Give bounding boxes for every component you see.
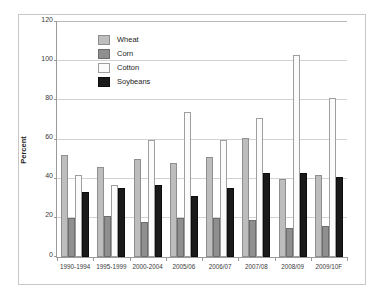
- bar-wheat: [315, 175, 322, 257]
- x-tick-label: 2005/06: [172, 263, 195, 270]
- bar-cotton: [148, 140, 155, 258]
- bar-group: 1990-1994: [57, 22, 93, 257]
- bar-cotton: [111, 185, 118, 257]
- bar-wheat: [97, 167, 104, 257]
- x-tick-label: 2009/10F: [316, 263, 343, 270]
- bar-corn: [249, 220, 256, 257]
- chart-figure: Percent 020406080100120 1990-19941995-19…: [18, 14, 366, 285]
- bar-group: 2007/08: [238, 22, 274, 257]
- bar-soybeans: [263, 173, 270, 257]
- y-tick-label: 80: [45, 93, 53, 100]
- bar-corn: [286, 228, 293, 257]
- x-tick-label: 1995-1999: [96, 263, 126, 270]
- bar-cotton: [329, 98, 336, 257]
- x-tick-mark: [93, 257, 94, 261]
- bar-cotton: [75, 175, 82, 257]
- x-tick-mark: [202, 257, 203, 261]
- bar-corn: [104, 216, 111, 257]
- legend-item-corn: Corn: [98, 48, 150, 59]
- bar-soybeans: [300, 173, 307, 257]
- y-tick-label: 40: [45, 172, 53, 179]
- bar-corn: [213, 218, 220, 257]
- bar-wheat: [279, 179, 286, 257]
- bar-soybeans: [82, 192, 89, 257]
- bar-group: 2005/06: [166, 22, 202, 257]
- legend-label: Corn: [117, 49, 133, 58]
- y-tick-label: 0: [49, 250, 53, 257]
- bar-wheat: [134, 159, 141, 257]
- bar-cotton: [220, 140, 227, 258]
- bar-group: 2009/10F: [311, 22, 347, 257]
- legend-label: Cotton: [117, 63, 139, 72]
- y-tick-label: 100: [41, 54, 53, 61]
- x-tick-mark: [275, 257, 276, 261]
- legend-swatch-icon: [98, 49, 110, 59]
- bar-soybeans: [336, 177, 343, 257]
- legend-label: Wheat: [117, 35, 139, 44]
- bar-group: 2008/09: [275, 22, 311, 257]
- x-tick-mark: [311, 257, 312, 261]
- legend-swatch-icon: [98, 63, 110, 73]
- x-tick-label: 2007/08: [245, 263, 268, 270]
- bar-corn: [68, 218, 75, 257]
- y-tick-label: 120: [41, 15, 53, 22]
- y-tick-label: 20: [45, 211, 53, 218]
- bar-corn: [141, 222, 148, 257]
- bar-soybeans: [227, 188, 234, 257]
- legend-item-cotton: Cotton: [98, 62, 150, 73]
- bar-wheat: [170, 163, 177, 257]
- x-tick-mark: [238, 257, 239, 261]
- bar-cotton: [256, 118, 263, 257]
- bar-wheat: [206, 157, 213, 257]
- bar-group: 2006/07: [202, 22, 238, 257]
- x-tick-mark: [166, 257, 167, 261]
- legend-item-soybeans: Soybeans: [98, 76, 150, 87]
- bar-cotton: [293, 55, 300, 257]
- legend-swatch-icon: [98, 77, 110, 87]
- bar-corn: [177, 218, 184, 257]
- bar-soybeans: [118, 188, 125, 257]
- y-axis-label: Percent: [19, 136, 28, 164]
- x-tick-mark: [130, 257, 131, 261]
- bar-wheat: [242, 138, 249, 257]
- bar-soybeans: [191, 196, 198, 257]
- x-tick-mark: [57, 257, 58, 261]
- legend-swatch-icon: [98, 35, 110, 45]
- chart-legend: WheatCornCottonSoybeans: [98, 34, 150, 87]
- legend-item-wheat: Wheat: [98, 34, 150, 45]
- bar-corn: [322, 226, 329, 257]
- x-tick-mark: [347, 257, 348, 261]
- bar-cotton: [184, 112, 191, 257]
- bar-soybeans: [155, 185, 162, 257]
- x-tick-label: 2008/09: [281, 263, 304, 270]
- y-tick-label: 60: [45, 133, 53, 140]
- x-tick-label: 1990-1994: [60, 263, 90, 270]
- x-tick-label: 2006/07: [209, 263, 232, 270]
- x-tick-label: 2000-2004: [133, 263, 163, 270]
- legend-label: Soybeans: [117, 77, 150, 86]
- bar-wheat: [61, 155, 68, 257]
